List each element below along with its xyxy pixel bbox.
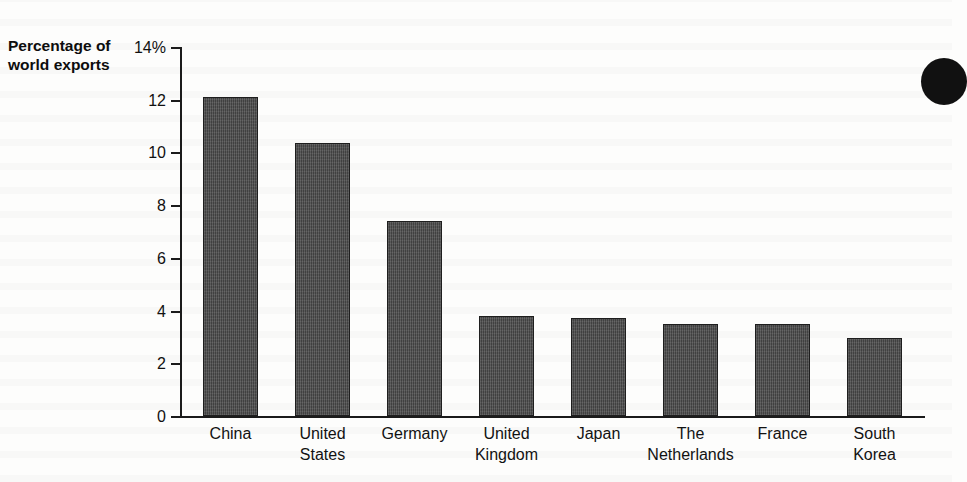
y-tick-label: 2 [157,355,166,373]
bar-the-netherlands [663,324,718,416]
y-tick-label: 10 [148,144,166,162]
page-margin-ink-blob [921,58,967,105]
bar-japan [571,318,626,416]
y-tick-label: 14% [134,39,166,57]
bar-south-korea [847,338,902,416]
x-label-line: States [268,444,378,465]
y-tick-mark [171,363,180,365]
x-label-line: Korea [820,444,930,465]
y-tick-mark [171,47,180,49]
bar-china [203,97,258,416]
y-axis-title-line-1: Percentage of [8,36,138,55]
y-tick-label: 6 [157,250,166,268]
y-tick-mark [171,152,180,154]
y-axis-line [180,47,182,418]
bar-germany [387,221,442,416]
x-label-south-korea: SouthKorea [820,423,930,465]
y-tick-mark [171,258,180,260]
bar-france [755,324,810,416]
x-label-line: Kingdom [452,444,562,465]
y-tick-label: 8 [157,197,166,215]
bar-united-kingdom [479,316,534,416]
bar-united-states [295,143,350,416]
x-axis-line [180,416,925,418]
y-tick-mark [171,311,180,313]
y-tick-label: 12 [148,92,166,110]
x-label-line: South [820,423,930,444]
y-tick-mark [171,100,180,102]
y-tick-mark [171,205,180,207]
y-axis-title: Percentage of world exports [8,36,138,74]
y-tick-label: 0 [157,408,166,426]
x-label-line: Netherlands [636,444,746,465]
y-tick-label: 4 [157,303,166,321]
y-axis-title-line-2: world exports [8,55,138,74]
plot-area: 02468101214% ChinaUnitedStatesGermanyUni… [180,47,925,418]
y-tick-mark [171,416,180,418]
